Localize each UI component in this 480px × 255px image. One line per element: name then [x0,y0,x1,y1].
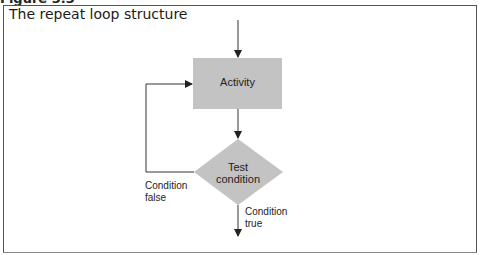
condition-false-label: Condition false [145,180,187,204]
true-label-line1: Condition [245,206,287,218]
test-label-line1: Test [200,161,276,173]
false-label-line1: Condition [145,180,187,192]
flowchart [0,0,480,255]
test-label-line2: condition [200,173,276,185]
false-label-line2: false [145,192,187,204]
condition-true-label: Condition true [245,206,287,230]
activity-text: Activity [220,76,255,88]
loop-back-arrow [146,84,194,172]
activity-label: Activity [193,76,282,88]
true-label-line2: true [245,218,287,230]
test-condition-label: Test condition [200,161,276,185]
